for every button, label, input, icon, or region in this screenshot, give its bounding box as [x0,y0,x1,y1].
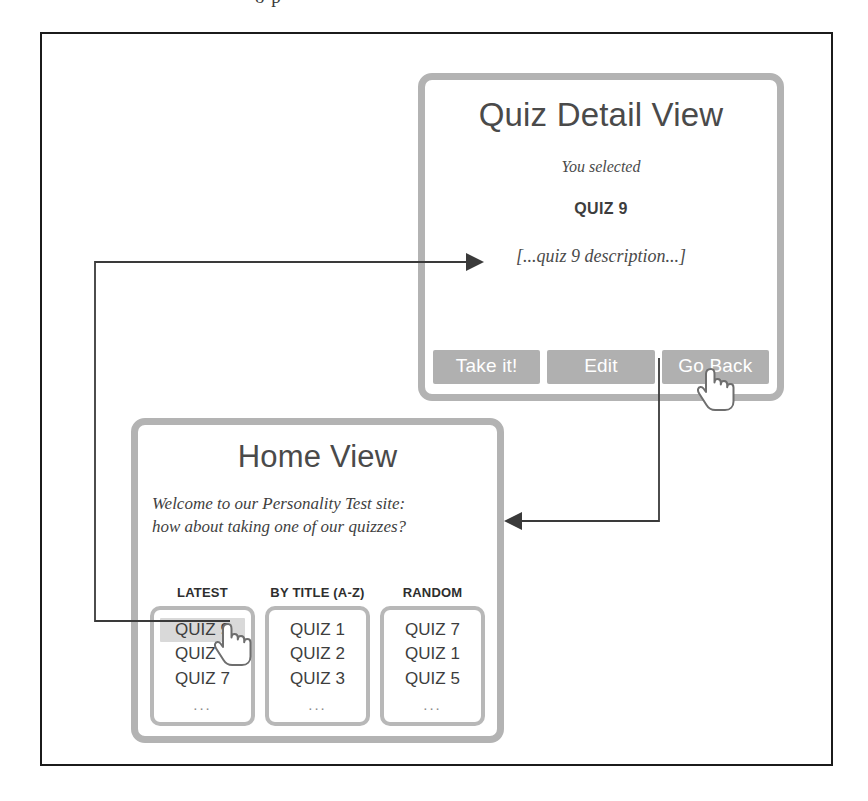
home-view-title: Home View [138,439,497,475]
quiz-columns: LATEST QUIZ 9 QUIZ 8 QUIZ 7 ... BY TITLE… [150,585,485,726]
quiz-list-latest: QUIZ 9 QUIZ 8 QUIZ 7 ... [150,606,255,726]
quiz-list-item-selected[interactable]: QUIZ 9 [160,618,245,642]
home-view-window: Home View Welcome to our Personality Tes… [131,418,504,743]
quiz-list-more-ellipsis: ... [384,691,481,716]
quiz-list-item[interactable]: QUIZ 1 [269,618,366,642]
quiz-list-item[interactable]: QUIZ 7 [384,618,481,642]
welcome-line-1: Welcome to our Personality Test site: [152,493,483,516]
take-it-button[interactable]: Take it! [433,350,540,384]
welcome-text: Welcome to our Personality Test site: ho… [152,493,483,539]
cropped-caption-fragment: o p [255,0,282,8]
column-header-random: RANDOM [403,585,463,600]
quiz-list-item[interactable]: QUIZ 3 [269,667,366,691]
quiz-list-random: QUIZ 7 QUIZ 1 QUIZ 5 ... [380,606,485,726]
quiz-list-item[interactable]: QUIZ 5 [384,667,481,691]
column-header-by-title: BY TITLE (A-Z) [270,585,364,600]
selected-quiz-name: QUIZ 9 [425,200,777,218]
detail-view-button-row: Take it! Edit Go Back [433,350,769,384]
quiz-detail-view-window: Quiz Detail View You selected QUIZ 9 [..… [418,73,784,401]
column-header-latest: LATEST [177,585,228,600]
quiz-list-more-ellipsis: ... [269,691,366,716]
quiz-column-by-title: BY TITLE (A-Z) QUIZ 1 QUIZ 2 QUIZ 3 ... [265,585,370,726]
figure-canvas: o p Quiz Detail View You selected QUIZ 9… [0,0,868,801]
quiz-list-item[interactable]: QUIZ 2 [269,642,366,666]
you-selected-label: You selected [425,158,777,176]
welcome-line-2: how about taking one of our quizzes? [152,516,483,539]
quiz-detail-view-title: Quiz Detail View [425,96,777,134]
go-back-button[interactable]: Go Back [662,350,769,384]
quiz-list-by-title: QUIZ 1 QUIZ 2 QUIZ 3 ... [265,606,370,726]
edit-button[interactable]: Edit [547,350,654,384]
quiz-column-latest: LATEST QUIZ 9 QUIZ 8 QUIZ 7 ... [150,585,255,726]
quiz-description-placeholder: [...quiz 9 description...] [425,246,777,267]
quiz-list-item[interactable]: QUIZ 7 [154,667,251,691]
quiz-column-random: RANDOM QUIZ 7 QUIZ 1 QUIZ 5 ... [380,585,485,726]
quiz-list-item[interactable]: QUIZ 8 [154,642,251,666]
quiz-list-item[interactable]: QUIZ 1 [384,642,481,666]
quiz-list-more-ellipsis: ... [154,691,251,716]
